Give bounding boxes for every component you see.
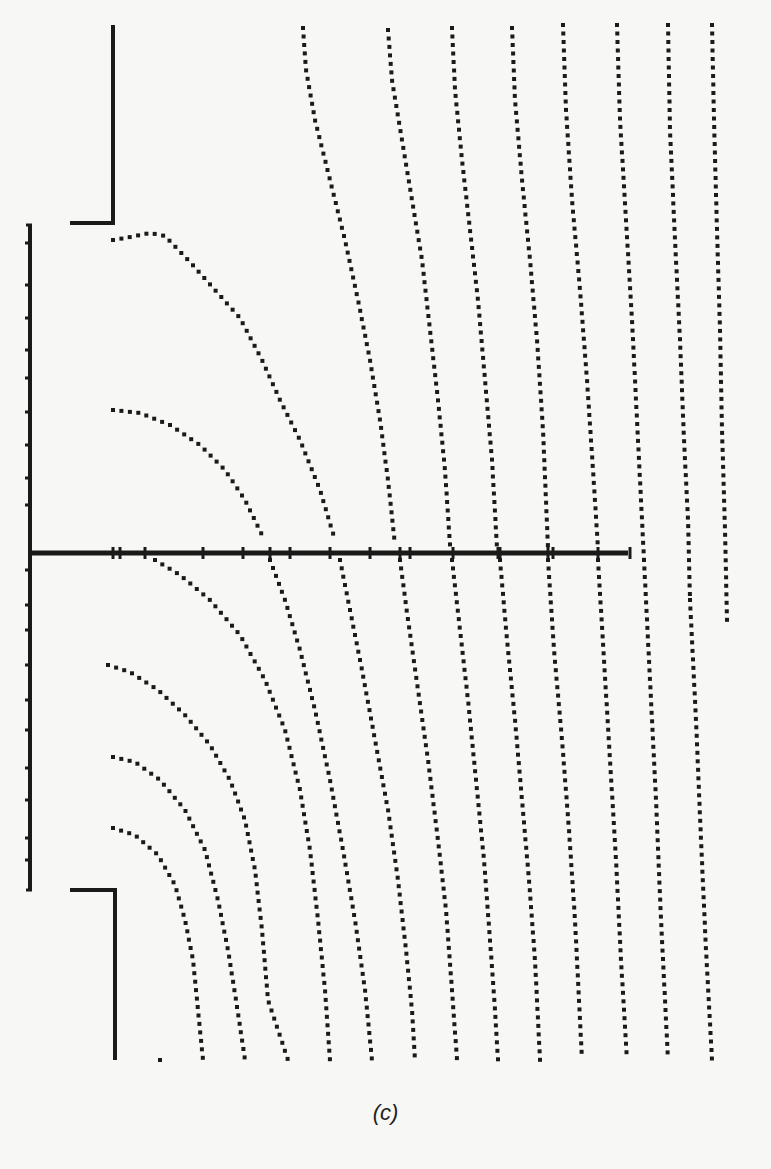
field-5-upper — [561, 23, 600, 544]
field-5-lower — [450, 558, 500, 1061]
field-1-upper — [301, 26, 396, 540]
arc-upper-2 — [111, 408, 263, 535]
figure-caption: (c) — [0, 1100, 771, 1126]
field-3-lower — [338, 558, 417, 1057]
field-line-curves — [106, 23, 729, 1062]
field-4-upper — [510, 26, 550, 547]
arc-upper-1 — [111, 232, 335, 536]
field-2-upper — [386, 28, 452, 546]
field-9-lower — [642, 558, 670, 1054]
field-8-upper — [710, 23, 729, 622]
arc-lower-1 — [106, 663, 290, 1061]
field-6-upper — [615, 23, 646, 562]
field-7-lower — [546, 558, 584, 1054]
field-6-lower — [498, 558, 542, 1062]
field-3-upper — [450, 26, 499, 546]
electrode-structure — [25, 25, 630, 1060]
field-2-lower — [268, 558, 374, 1060]
field-10-lower — [688, 598, 714, 1061]
field-4-lower — [398, 558, 459, 1060]
arc-lower-2 — [111, 755, 247, 1059]
field-7-upper — [666, 23, 692, 596]
stray-dot — [158, 1058, 162, 1062]
caption-text: (c) — [373, 1100, 399, 1125]
arc-lower-3 — [111, 826, 205, 1060]
field-8-lower — [596, 558, 629, 1054]
field-line-figure — [0, 0, 771, 1169]
